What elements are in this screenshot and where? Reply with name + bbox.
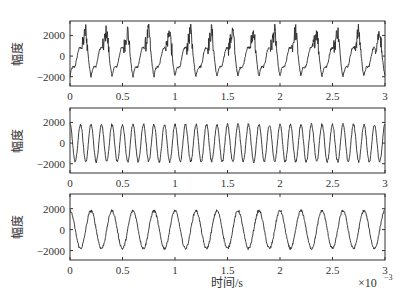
x-tick-label: 1 (172, 177, 178, 189)
x-scale-note: ×10 (358, 276, 377, 290)
subplot-2: 00.511.522.5320000−2000幅度 (10, 108, 388, 189)
x-tick-label: 2 (277, 177, 283, 189)
x-tick-label: 0 (67, 264, 73, 276)
y-tick-label: 0 (60, 137, 66, 149)
x-tick-label: 0 (67, 177, 73, 189)
x-tick-label: 2 (277, 90, 283, 102)
axes-frame (70, 108, 385, 173)
x-tick-label: 0.5 (116, 264, 130, 276)
x-tick-label: 0.5 (116, 90, 130, 102)
x-tick-label: 1.5 (221, 90, 235, 102)
y-axis-label: 幅度 (10, 129, 25, 153)
y-tick-label: −2000 (37, 245, 66, 257)
signal-line (70, 123, 385, 163)
signal-line (70, 209, 385, 249)
y-tick-label: 2000 (43, 29, 66, 41)
y-axis-label: 幅度 (10, 215, 25, 239)
figure: 00.511.522.5320000−2000幅度00.511.522.5320… (0, 0, 406, 306)
subplot-1: 00.511.522.5320000−2000幅度 (10, 21, 388, 102)
x-tick-label: 2 (277, 264, 283, 276)
x-tick-label: 2.5 (326, 90, 340, 102)
axes-frame (70, 194, 385, 260)
y-axis-label: 幅度 (10, 42, 25, 66)
y-tick-label: 2000 (43, 116, 66, 128)
subplot-3: 00.511.522.5320000−2000幅度 (10, 194, 388, 276)
y-tick-label: −2000 (37, 158, 66, 170)
x-tick-label: 3 (382, 90, 388, 102)
x-tick-label: 1 (172, 90, 178, 102)
x-scale-exponent: −3 (384, 273, 393, 282)
y-tick-label: −2000 (37, 71, 66, 83)
x-tick-label: 0.5 (116, 177, 130, 189)
x-tick-label: 1.5 (221, 264, 235, 276)
signal-line (70, 24, 385, 77)
x-tick-label: 3 (382, 177, 388, 189)
x-tick-label: 2.5 (326, 264, 340, 276)
x-tick-label: 0 (67, 90, 73, 102)
x-axis-label: 时间/s (211, 276, 243, 290)
x-tick-label: 1.5 (221, 177, 235, 189)
x-tick-label: 1 (172, 264, 178, 276)
y-tick-label: 0 (60, 224, 66, 236)
x-tick-label: 2.5 (326, 177, 340, 189)
y-tick-label: 0 (60, 50, 66, 62)
y-tick-label: 2000 (43, 203, 66, 215)
